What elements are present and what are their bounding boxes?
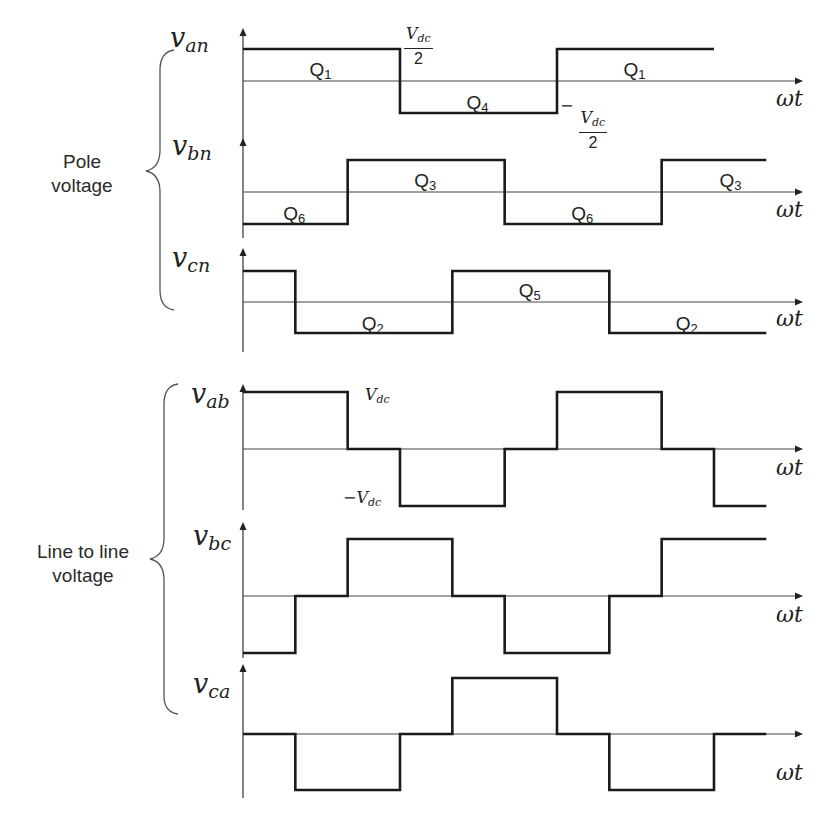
v-ca-label: vca (193, 668, 230, 702)
line-voltage-label-line2: voltage (12, 564, 154, 588)
arrow-up-icon (240, 522, 247, 530)
switch-label-q1: Q1 (309, 59, 331, 82)
omega-t-axis-label: ωt (776, 86, 803, 111)
v-ab-label: vab (191, 378, 230, 412)
vdc-half-negative-annotation: − Vdc2 (560, 96, 607, 153)
arrow-right-icon (795, 78, 803, 85)
arrow-up-icon (240, 138, 247, 146)
waveform-diagram (0, 0, 830, 813)
switch-label-q1: Q1 (623, 59, 645, 82)
vdc-negative-annotation: −Vdc (343, 488, 381, 509)
v-an-label: van (170, 22, 209, 56)
pole-voltage-group-label: Pole voltage (20, 150, 144, 198)
arrow-up-icon (240, 248, 247, 256)
switch-label-q3: Q3 (719, 170, 741, 193)
line-voltage-brace (150, 384, 178, 714)
switch-label-q2: Q2 (362, 313, 384, 336)
waveforms-layer (243, 49, 766, 790)
pole-voltage-label-line1: Pole (20, 150, 144, 174)
switch-label-q6: Q6 (571, 203, 593, 226)
arrow-right-icon (795, 299, 803, 306)
arrow-right-icon (795, 446, 803, 453)
v-bn-label: vbn (172, 130, 212, 164)
v-bc-label: vbc (193, 520, 231, 554)
line-voltage-group-label: Line to line voltage (12, 540, 154, 588)
vdc-half-positive-annotation: Vdc2 (404, 24, 433, 69)
omega-t-axis-label: ωt (776, 306, 803, 331)
arrow-right-icon (795, 731, 803, 738)
switch-label-q3: Q3 (414, 170, 436, 193)
switch-label-q6: Q6 (283, 203, 305, 226)
omega-t-axis-label: ωt (776, 197, 803, 222)
line-voltage-label-line1: Line to line (12, 540, 154, 564)
arrow-right-icon (795, 189, 803, 196)
axes-layer (240, 28, 804, 798)
pole-voltage-label-line2: voltage (20, 174, 144, 198)
arrow-up-icon (240, 28, 247, 36)
switch-label-q4: Q4 (466, 92, 488, 115)
arrow-right-icon (795, 593, 803, 600)
switch-label-q2: Q2 (676, 313, 698, 336)
omega-t-axis-label: ωt (776, 760, 803, 785)
omega-t-axis-label: ωt (776, 602, 803, 627)
vdc-positive-annotation: Vdc (365, 385, 390, 406)
arrow-up-icon (240, 664, 247, 672)
v-cn-label: vcn (172, 242, 210, 276)
omega-t-axis-label: ωt (776, 455, 803, 480)
switch-label-q5: Q5 (519, 280, 541, 303)
pole-voltage-brace (146, 50, 174, 310)
